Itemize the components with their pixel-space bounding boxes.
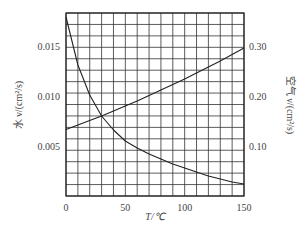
grid — [66, 13, 244, 196]
right-y-axis-label: 空气 ν/(cm²/s) — [284, 76, 297, 134]
x-tick-label: 50 — [120, 202, 130, 213]
right-y-axis-ticks: 0.100.200.30 — [249, 41, 267, 152]
left-y-tick-label: 0.015 — [38, 41, 61, 52]
left-y-tick-label: 0.010 — [38, 91, 61, 102]
right-y-tick-label: 0.30 — [249, 41, 267, 52]
air-viscosity-curve — [66, 48, 244, 130]
x-tick-label: 100 — [177, 202, 192, 213]
x-axis-label: T/℃ — [145, 211, 166, 222]
series-group — [66, 17, 244, 184]
right-y-tick-label: 0.20 — [249, 91, 267, 102]
left-y-axis-ticks: 0.0050.0100.015 — [38, 41, 61, 152]
water-viscosity-curve — [66, 17, 244, 184]
chart-canvas: 050100150 0.0050.0100.015 0.100.200.30 T… — [0, 0, 305, 236]
left-y-tick-label: 0.005 — [38, 141, 61, 152]
x-tick-label: 0 — [64, 202, 69, 213]
x-tick-label: 150 — [237, 202, 252, 213]
right-y-tick-label: 0.10 — [249, 141, 267, 152]
left-y-axis-label: 水 ν/(cm²/s) — [13, 81, 25, 129]
